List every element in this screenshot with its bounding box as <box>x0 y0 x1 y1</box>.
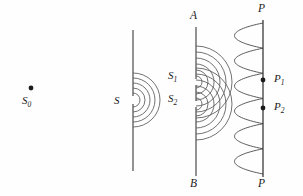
wavefront-arc <box>133 88 145 112</box>
intensity-fringe-curve <box>235 23 264 174</box>
wavefront-arc <box>196 74 226 134</box>
diagram-canvas <box>0 0 303 196</box>
interference-diagram: S0 S S1 S2 A B P P P1 P2 <box>0 0 303 196</box>
single-slit-wavefronts <box>133 73 160 127</box>
point-p2-dot <box>261 106 266 111</box>
label-screen-top: P <box>258 3 265 15</box>
label-point2: P2 <box>274 101 284 115</box>
label-source: S0 <box>22 95 31 109</box>
wavefront-arc <box>133 78 155 122</box>
wavefront-arc <box>196 52 226 112</box>
label-barrier-top: A <box>190 10 197 22</box>
wavefront-arc <box>133 73 160 127</box>
wavefront-arc <box>133 93 140 107</box>
point-p1-dot <box>261 78 266 83</box>
label-single-slit: S <box>114 95 120 106</box>
label-screen-bottom: P <box>258 178 265 190</box>
label-point1: P1 <box>274 73 284 87</box>
label-slit2: S2 <box>168 93 177 107</box>
label-slit1: S1 <box>168 70 177 84</box>
source-point-dot <box>29 86 34 91</box>
label-barrier-bottom: B <box>190 178 197 190</box>
